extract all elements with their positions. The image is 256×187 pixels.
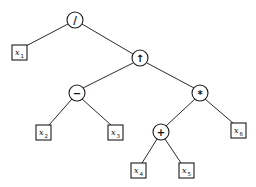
operand-leaf-x4: x 4 bbox=[131, 163, 146, 178]
operator-node-power: ↑ bbox=[132, 50, 148, 66]
operator-node-add: + bbox=[153, 124, 169, 140]
operator-node-subtract: − bbox=[69, 85, 85, 101]
edge-sub-x3 bbox=[82, 99, 111, 125]
leaf-subscript: 5 bbox=[188, 171, 192, 177]
asterisk-symbol: * bbox=[197, 89, 203, 100]
leaf-var: x bbox=[234, 126, 239, 135]
leaf-subscript: 4 bbox=[140, 171, 144, 177]
divide-symbol: / bbox=[73, 15, 77, 26]
operand-leaf-x1: x 1 bbox=[12, 45, 27, 60]
operand-leaf-x6: x 6 bbox=[231, 123, 246, 138]
operand-leaf-x2: x 2 bbox=[36, 125, 51, 140]
up-arrow-icon: ↑ bbox=[136, 53, 144, 64]
operand-leaf-x5: x 5 bbox=[179, 163, 194, 178]
plus-symbol: + bbox=[157, 127, 165, 138]
leaf-subscript: 3 bbox=[117, 133, 121, 139]
expression-tree-diagram: / ↑ − * + x 1 x 2 x 3 x 6 x 4 bbox=[0, 0, 256, 187]
operator-node-divide: / bbox=[67, 12, 83, 28]
edge-add-x5 bbox=[165, 139, 181, 163]
edge-mul-add bbox=[166, 99, 195, 126]
edge-div-x1 bbox=[26, 24, 68, 46]
leaf-subscript: 6 bbox=[240, 131, 244, 137]
edge-div-pow bbox=[82, 24, 133, 54]
leaf-var: x bbox=[111, 128, 116, 137]
edge-sub-x2 bbox=[49, 99, 72, 125]
leaf-subscript: 2 bbox=[45, 133, 49, 139]
edge-mul-x6 bbox=[205, 99, 233, 123]
leaf-subscript: 1 bbox=[21, 53, 25, 59]
edge-pow-mul bbox=[147, 63, 194, 88]
edge-pow-sub bbox=[83, 63, 133, 88]
edge-add-x4 bbox=[142, 139, 157, 163]
leaf-var: x bbox=[134, 166, 139, 175]
leaf-var: x bbox=[182, 166, 187, 175]
minus-symbol: − bbox=[73, 88, 81, 99]
operand-leaf-x3: x 3 bbox=[108, 125, 123, 140]
leaf-var: x bbox=[39, 128, 44, 137]
operator-node-multiply: * bbox=[192, 85, 208, 101]
leaf-var: x bbox=[15, 48, 20, 57]
